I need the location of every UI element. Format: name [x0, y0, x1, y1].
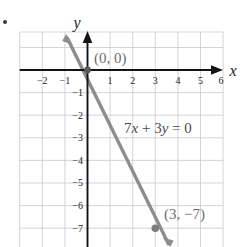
x-axis-label: x: [228, 62, 236, 79]
ytick-label-neg6: −6: [72, 200, 83, 211]
xtick-label-3: 3: [153, 75, 158, 86]
eq-plus: +: [138, 120, 154, 136]
xtick-label-1: 1: [108, 75, 113, 86]
eq-coef-y: 3: [154, 120, 162, 136]
eq-var-y: y: [160, 120, 169, 136]
annotation-equation: 7x + 3y = 0: [124, 120, 192, 136]
ytick-label-neg7: −7: [72, 223, 83, 234]
graph-figure: −2 −1 1 2 3 4 5 6 −1 −2 −3 −4 −5 −6 −7 y…: [0, 0, 245, 247]
xtick-label-neg1: −1: [60, 75, 71, 86]
eq-equals: =: [168, 120, 184, 136]
xtick-label-5: 5: [198, 75, 203, 86]
origin-point-marker: [84, 67, 91, 74]
point-3-neg7-marker: [152, 224, 160, 232]
xtick-label-6: 6: [219, 75, 224, 86]
x-axis: [20, 65, 223, 75]
annotation-origin: (0, 0): [94, 50, 127, 67]
eq-rhs: 0: [184, 120, 192, 136]
y-axis: [83, 31, 93, 247]
xtick-label-4: 4: [175, 75, 180, 86]
y-axis-label: y: [71, 14, 81, 32]
ytick-label-neg5: −5: [72, 177, 83, 188]
ytick-label-neg4: −4: [72, 155, 83, 166]
ytick-label-neg1: −1: [72, 87, 83, 98]
xtick-label-2: 2: [130, 75, 135, 86]
ytick-label-neg3: −3: [72, 132, 83, 143]
annotation-point-3-neg7: (3, −7): [164, 206, 205, 223]
xtick-label-neg2: −2: [37, 75, 48, 86]
ytick-label-neg2: −2: [72, 110, 83, 121]
coordinate-plane: −2 −1 1 2 3 4 5 6 −1 −2 −3 −4 −5 −6 −7 y…: [0, 0, 245, 247]
